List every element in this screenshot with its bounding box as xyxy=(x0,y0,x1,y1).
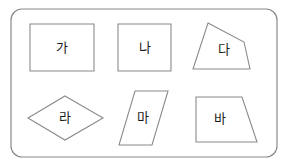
shape-label-ra: 라 xyxy=(59,110,71,125)
shape-label-ma: 마 xyxy=(137,110,149,125)
shape-label-ba: 바 xyxy=(214,111,226,126)
shape-label-na: 나 xyxy=(139,40,151,55)
shapes-figure: 가 나 다 라 마 바 xyxy=(0,0,287,164)
shape-worksheet: 가 나 다 라 마 바 xyxy=(0,0,287,164)
shape-label-ga: 가 xyxy=(56,40,68,55)
shape-ga[interactable]: 가 xyxy=(30,24,94,71)
shape-label-da: 다 xyxy=(218,42,230,57)
shape-na[interactable]: 나 xyxy=(118,24,171,71)
